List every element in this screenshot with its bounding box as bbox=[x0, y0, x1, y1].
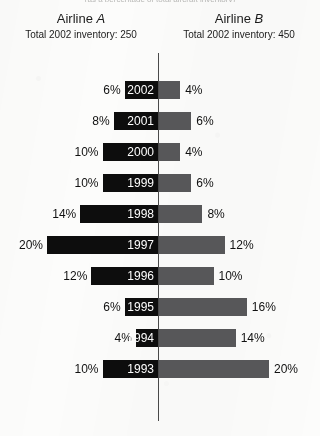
pct-label-airline-b: 12% bbox=[230, 236, 274, 254]
bar-year-label: 1995 bbox=[96, 298, 154, 316]
bar-year-label: 2001 bbox=[96, 112, 154, 130]
bar-airline-b bbox=[158, 112, 191, 130]
airline-b-header: Airline B Total 2002 inventory: 450 bbox=[164, 11, 314, 42]
bar-row: 200010%4% bbox=[0, 137, 320, 168]
pct-label-airline-a: 20% bbox=[3, 236, 43, 254]
bar-year-label: 2002 bbox=[96, 81, 154, 99]
bar-year-label: 1994 bbox=[96, 329, 154, 347]
bar-row: 20018%6% bbox=[0, 106, 320, 137]
pct-label-airline-a: 14% bbox=[36, 205, 76, 223]
bar-row: 19944%14% bbox=[0, 323, 320, 354]
bar-year-label: 1993 bbox=[96, 360, 154, 378]
bar-year-label: 1998 bbox=[96, 205, 154, 223]
airline-b-name-letter: B bbox=[255, 11, 264, 26]
bar-airline-b bbox=[158, 143, 180, 161]
bar-year-label: 1997 bbox=[96, 236, 154, 254]
bar-year-label: 1999 bbox=[96, 174, 154, 192]
bar-row: 19956%16% bbox=[0, 292, 320, 323]
bar-airline-b bbox=[158, 360, 269, 378]
bar-airline-b bbox=[158, 267, 214, 285]
bar-row: 199720%12% bbox=[0, 230, 320, 261]
pct-label-airline-b: 10% bbox=[219, 267, 263, 285]
airline-a-name-base: Airline bbox=[57, 11, 93, 26]
bar-year-label: 2000 bbox=[96, 143, 154, 161]
pct-label-airline-b: 16% bbox=[252, 298, 296, 316]
bar-year-label: 1996 bbox=[96, 267, 154, 285]
pct-label-airline-b: 4% bbox=[185, 143, 229, 161]
bar-row: 199310%20% bbox=[0, 354, 320, 385]
airline-a-subtitle: Total 2002 inventory: 250 bbox=[6, 28, 156, 42]
chart-plot-area: 20026%4%20018%6%200010%4%199910%6%199814… bbox=[0, 53, 320, 436]
pct-label-airline-b: 14% bbox=[241, 329, 285, 347]
bar-row: 20026%4% bbox=[0, 75, 320, 106]
bar-airline-b bbox=[158, 174, 191, 192]
chart-header: Airline A Total 2002 inventory: 250 Airl… bbox=[0, 11, 320, 53]
pct-label-airline-b: 8% bbox=[207, 205, 251, 223]
bar-airline-b bbox=[158, 329, 236, 347]
center-axis-line bbox=[158, 53, 159, 421]
chart-supertitle: (as a percentage of total aircraft inven… bbox=[0, 0, 320, 2]
pct-label-airline-b: 4% bbox=[185, 81, 229, 99]
pct-label-airline-b: 20% bbox=[274, 360, 318, 378]
bar-row: 199612%10% bbox=[0, 261, 320, 292]
bar-airline-b bbox=[158, 81, 180, 99]
bar-row: 199910%6% bbox=[0, 168, 320, 199]
airline-a-name-letter: A bbox=[97, 11, 106, 26]
pct-label-airline-a: 10% bbox=[59, 143, 99, 161]
bar-airline-b bbox=[158, 205, 202, 223]
airline-b-name: Airline B bbox=[164, 11, 314, 27]
airline-a-name: Airline A bbox=[6, 11, 156, 27]
airline-a-header: Airline A Total 2002 inventory: 250 bbox=[6, 11, 156, 42]
bar-airline-b bbox=[158, 298, 247, 316]
pct-label-airline-b: 6% bbox=[196, 174, 240, 192]
airline-b-subtitle: Total 2002 inventory: 450 bbox=[164, 28, 314, 42]
bar-row: 199814%8% bbox=[0, 199, 320, 230]
pct-label-airline-a: 10% bbox=[59, 174, 99, 192]
bar-airline-b bbox=[158, 236, 225, 254]
pct-label-airline-a: 10% bbox=[59, 360, 99, 378]
pct-label-airline-b: 6% bbox=[196, 112, 240, 130]
pct-label-airline-a: 12% bbox=[47, 267, 87, 285]
airline-b-name-base: Airline bbox=[215, 11, 251, 26]
